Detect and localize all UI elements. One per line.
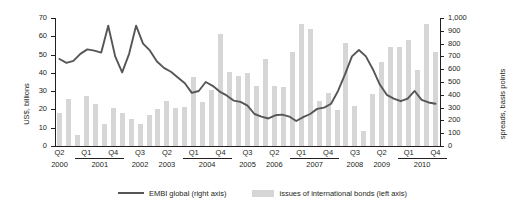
right-axis-tick <box>440 95 444 96</box>
x-axis-quarter-label: Q2 <box>367 148 397 157</box>
right-axis-tick <box>440 108 444 109</box>
x-axis-quarter-label: Q2 <box>44 148 74 157</box>
x-axis-line <box>55 146 440 147</box>
x-axis-quarter-label: Q4 <box>421 148 451 157</box>
right-axis-tick-label: 1,000 <box>448 14 467 22</box>
right-axis-tick <box>440 120 444 121</box>
chart-container: US$, billions spreads, basis points 0102… <box>0 0 525 208</box>
legend-label-embi-global: EMBI global (right axis) <box>149 189 227 198</box>
right-axis-tick-label: 400 <box>448 91 461 99</box>
right-axis-tick-label: 800 <box>448 40 461 48</box>
x-axis-quarter-label: Q1 <box>179 148 209 157</box>
x-axis-year-label: 2000 <box>41 160 77 169</box>
x-axis-year-label: 2010 <box>404 160 440 169</box>
legend-item-international-bonds: issues of international bonds (left axis… <box>252 189 407 198</box>
x-axis-quarter-label: Q4 <box>206 148 236 157</box>
x-axis-quarter-label: Q3 <box>340 148 370 157</box>
x-axis-year-rule <box>398 158 447 159</box>
legend-label-international-bonds: issues of international bonds (left axis… <box>279 189 407 198</box>
x-axis-quarter-label: Q4 <box>313 148 343 157</box>
right-axis-tick-label: 200 <box>448 116 461 124</box>
left-axis-tick-label: 50 <box>7 51 47 59</box>
left-axis-tick-label: 0 <box>7 142 47 150</box>
right-axis-tick <box>440 44 444 45</box>
x-axis-quarter-label: Q1 <box>71 148 101 157</box>
chart-legend: EMBI global (right axis) issues of inter… <box>0 184 525 202</box>
x-axis-quarter-label: Q1 <box>286 148 316 157</box>
right-axis-tick-label: 300 <box>448 104 461 112</box>
left-axis-tick-label: 20 <box>7 105 47 113</box>
left-axis-tick-label: 40 <box>7 69 47 77</box>
right-axis-tick-label: 600 <box>448 65 461 73</box>
line-swatch-icon <box>118 192 144 195</box>
x-axis-year-label: 2006 <box>256 160 292 169</box>
left-axis-tick <box>51 146 55 147</box>
right-axis-tick <box>440 69 444 70</box>
left-axis-tick-label: 70 <box>7 14 47 22</box>
x-axis-year-label: 2004 <box>189 160 225 169</box>
bar-swatch-icon <box>252 190 274 197</box>
x-axis-quarter-label: Q4 <box>98 148 128 157</box>
x-axis-year-rule <box>290 158 339 159</box>
plot-area: 010203040506070 010020030040050060070080… <box>55 18 440 146</box>
x-axis-quarter-label: Q3 <box>233 148 263 157</box>
x-axis-year-rule <box>183 158 232 159</box>
right-axis-tick <box>440 133 444 134</box>
x-axis-quarter-label: Q2 <box>152 148 182 157</box>
right-axis-tick <box>440 18 444 19</box>
x-axis-year-label: 2001 <box>82 160 118 169</box>
x-axis-year-label: 2007 <box>297 160 333 169</box>
right-axis-tick <box>440 31 444 32</box>
x-axis-year-rule <box>75 158 124 159</box>
legend-item-embi-global: EMBI global (right axis) <box>118 189 227 198</box>
x-axis-year-label: 2003 <box>149 160 185 169</box>
x-axis-quarter-label: Q1 <box>394 148 424 157</box>
right-axis-tick-label: 500 <box>448 78 461 86</box>
x-axis-year-label: 2009 <box>364 160 400 169</box>
x-axis-quarter-label: Q2 <box>259 148 289 157</box>
right-axis-title: spreads, basis points <box>497 69 506 139</box>
x-axis-quarter-label: Q3 <box>125 148 155 157</box>
left-axis-tick-label: 10 <box>7 124 47 132</box>
right-axis-tick <box>440 82 444 83</box>
left-axis-tick-label: 60 <box>7 32 47 40</box>
x-axis-labels: Q22000Q12001Q4Q32002Q22003Q12004Q4Q32005… <box>55 148 440 178</box>
embi-global-polyline <box>59 26 435 121</box>
line-series-embi-global <box>55 18 440 146</box>
right-axis-tick-label: 100 <box>448 129 461 137</box>
right-axis-tick-label: 900 <box>448 27 461 35</box>
right-axis-tick <box>440 146 444 147</box>
right-axis-tick-label: 700 <box>448 52 461 60</box>
right-axis-tick <box>440 56 444 57</box>
left-axis-tick-label: 30 <box>7 87 47 95</box>
